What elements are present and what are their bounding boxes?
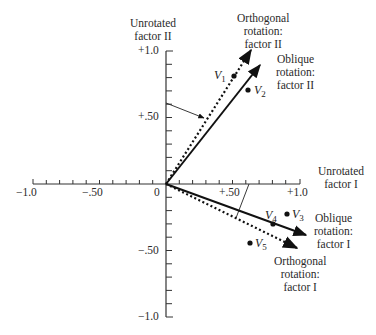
y-tick-minus-1: −1.0 [138,310,159,322]
orthogonal-factor-ii-vector [166,50,251,184]
point-v1 [231,73,236,78]
x-tick-plus-1: +1.0 [287,186,308,198]
point-v3 [284,211,289,216]
oblique-factor-ii-vector [166,65,260,184]
point-v2 [245,87,250,92]
y-axis-title: Unrotatedfactor II [130,17,176,43]
x-tick-zero: 0 [154,186,160,198]
oblique-factor-ii-label: Obliquerotation:factor II [276,53,315,92]
point-label-v1: V1 [214,68,226,84]
y-tick-plus-1: +1.0 [138,44,159,56]
x-axis-title: Unrotatedfactor I [318,165,364,191]
x-tick-minus-050: −.50 [82,186,103,198]
y-tick-plus-050: +.50 [138,110,159,122]
point-label-v5: V5 [255,236,267,252]
x-tick-minus-1: −1.0 [16,186,37,198]
point-label-v2: V2 [254,83,266,99]
point-label-v4: V4 [265,208,277,224]
y-tick-minus-050: −.50 [138,244,159,256]
angle-line-factor-ii [166,103,204,118]
orthogonal-factor-i-label: Orthogonalrotation:factor I [274,255,326,294]
oblique-factor-i-label: Obliquerotation:factor I [314,212,353,251]
x-tick-plus-050: +.50 [219,186,240,198]
point-v5 [247,240,252,245]
orthogonal-factor-ii-label: Orthogonalrotation:factor II [237,12,289,51]
point-label-v3: V3 [292,207,304,223]
